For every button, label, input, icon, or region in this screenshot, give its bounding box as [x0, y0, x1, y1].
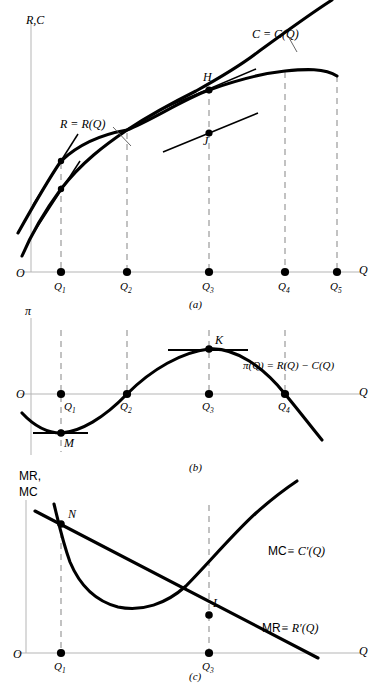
- point-N-label: N: [68, 508, 76, 520]
- panel-b-origin-label: O: [16, 388, 25, 400]
- panel-a-caption: (a): [189, 299, 202, 310]
- revenue-curve-label: R = R(Q): [60, 118, 105, 130]
- tick-dot-Q2-b: [123, 390, 131, 398]
- panel-a-axes: [20, 22, 360, 272]
- revenue-curve: [18, 70, 337, 233]
- panel-a-origin-label: O: [16, 267, 25, 279]
- panel-c-y-axis-label-line1: MR,: [19, 470, 41, 482]
- panel-b-x-axis-label: Q: [359, 386, 368, 398]
- tick-dot-Q1-a: [57, 268, 65, 276]
- point-R-Q1-dot: [58, 158, 64, 164]
- panel-a-tick-Q5: Q5: [330, 281, 342, 295]
- point-J-label: J: [203, 135, 208, 147]
- panel-b-tick-Q1: Q1: [64, 401, 76, 415]
- panel-b-dashed-guides: [61, 330, 285, 452]
- tick-dot-Q3-c: [205, 649, 213, 657]
- tangent-C-at-Q1: [34, 161, 80, 232]
- panel-b-y-axis-label: π: [25, 305, 31, 317]
- tick-dot-Q1-c: [57, 649, 65, 657]
- panel-a-tick-Q2: Q2: [120, 281, 132, 295]
- point-C-Q1-dot: [58, 186, 64, 192]
- marginal-revenue-label: MR≡ R′(Q): [262, 622, 318, 634]
- panel-c-dashed-guides: [61, 505, 209, 649]
- panel-c-tick-Q1: Q1: [54, 661, 66, 675]
- panel-b-tick-Q3: Q3: [202, 401, 214, 415]
- tick-dot-Q1-b: [57, 390, 65, 398]
- cost-curve-label: C = C(Q): [252, 28, 299, 40]
- figure-canvas: [0, 0, 391, 700]
- panel-a-tangent-lines: [33, 69, 258, 232]
- tick-dot-Q3-b: [205, 390, 213, 398]
- panel-c-points: [57, 520, 213, 657]
- panel-b-axes: [20, 318, 360, 455]
- panel-c-tick-Q3: Q3: [202, 661, 214, 675]
- panel-a-x-axis-label: Q: [359, 264, 368, 276]
- panel-b-tick-Q2: Q2: [120, 401, 132, 415]
- profit-curve-label: π(Q) = R(Q) − C(Q): [243, 360, 334, 371]
- panel-a-tick-Q4: Q4: [278, 281, 290, 295]
- panel-c-origin-label: O: [13, 648, 22, 660]
- tick-dot-Q2-a: [123, 268, 131, 276]
- point-M-label: M: [64, 437, 74, 449]
- panel-c-caption: (c): [189, 671, 201, 682]
- panel-a-dashed-guides: [61, 72, 337, 268]
- point-K-dot: [205, 345, 213, 353]
- tick-dot-Q4-a: [281, 268, 289, 276]
- tick-dot-Q3-a: [205, 268, 213, 276]
- point-L-label: L: [213, 597, 220, 609]
- point-H-dot: [205, 86, 212, 93]
- marginal-cost-label: MC≡ C′(Q): [268, 545, 325, 557]
- marginal-revenue-curve: [35, 511, 318, 658]
- point-H-label: H: [203, 71, 212, 83]
- economics-figure: R,C Q O Q1 Q2 Q3 Q4 Q5 R = R(Q) C = C(Q)…: [0, 0, 391, 700]
- panel-c-y-axis-label-line2: MC: [19, 486, 38, 498]
- panel-c-x-axis-label: Q: [359, 645, 368, 657]
- panel-b-tick-Q4: Q4: [278, 401, 290, 415]
- panel-a-y-axis-label: R,C: [26, 14, 44, 26]
- point-L-dot: [205, 611, 213, 619]
- panel-a-points: [57, 86, 341, 276]
- tick-dot-Q4-b: [281, 390, 289, 398]
- panel-b-tangent-lines: [33, 350, 248, 433]
- panel-a-tick-Q1: Q1: [54, 281, 66, 295]
- point-N-dot: [57, 520, 65, 528]
- panel-b-caption: (b): [189, 462, 202, 473]
- panel-a-tick-Q3: Q3: [202, 281, 214, 295]
- point-K-label: K: [215, 334, 223, 346]
- tick-dot-Q5-a: [333, 268, 341, 276]
- marginal-cost-curve: [54, 481, 297, 608]
